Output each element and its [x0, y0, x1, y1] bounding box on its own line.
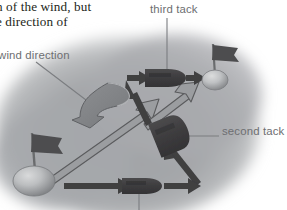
body-text-line-2: e direction of — [0, 14, 68, 30]
boat-first-tack — [122, 178, 162, 194]
label-wind-direction: wind direction — [0, 49, 70, 61]
sailing-tack-diagram — [0, 0, 287, 210]
boat-third-tack — [145, 69, 186, 87]
body-text-line-1: n of the wind, but — [0, 0, 91, 15]
label-third-tack: third tack — [150, 3, 198, 15]
label-second-tack: second tack — [222, 125, 284, 137]
diagram-page: n of the wind, but e direction of wind d… — [0, 0, 287, 210]
